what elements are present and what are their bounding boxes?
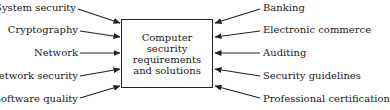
center-line-2: requirements — [122, 54, 212, 65]
label-security-guidelines: Security guidelines — [263, 70, 361, 82]
arrow-network-security — [80, 69, 120, 76]
arrow-security-guidelines — [215, 69, 260, 76]
arrow-electronic-commerce — [215, 31, 260, 37]
label-software-quality: Software quality — [0, 93, 78, 105]
arrow-professional-certification — [215, 86, 260, 98]
arrow-banking — [215, 9, 260, 23]
label-banking: Banking — [263, 2, 305, 14]
label-auditing: Auditing — [263, 47, 306, 59]
label-network-security: Network security — [0, 70, 78, 82]
label-electronic-commerce: Electronic commerce — [263, 24, 371, 36]
center-title: Computer security requirements and solut… — [122, 32, 212, 76]
label-system-security: System security — [0, 2, 76, 14]
label-cryptography: Cryptography — [8, 24, 78, 36]
center-line-3: and solutions — [122, 65, 212, 76]
label-professional-certification: Professional certification — [263, 93, 390, 105]
label-network: Network — [34, 47, 78, 59]
arrow-cryptography — [80, 31, 120, 37]
arrow-software-quality — [80, 86, 120, 98]
center-box: Computer security requirements and solut… — [121, 19, 213, 88]
arrow-system-security — [78, 9, 120, 23]
center-line-1: Computer security — [122, 32, 212, 54]
